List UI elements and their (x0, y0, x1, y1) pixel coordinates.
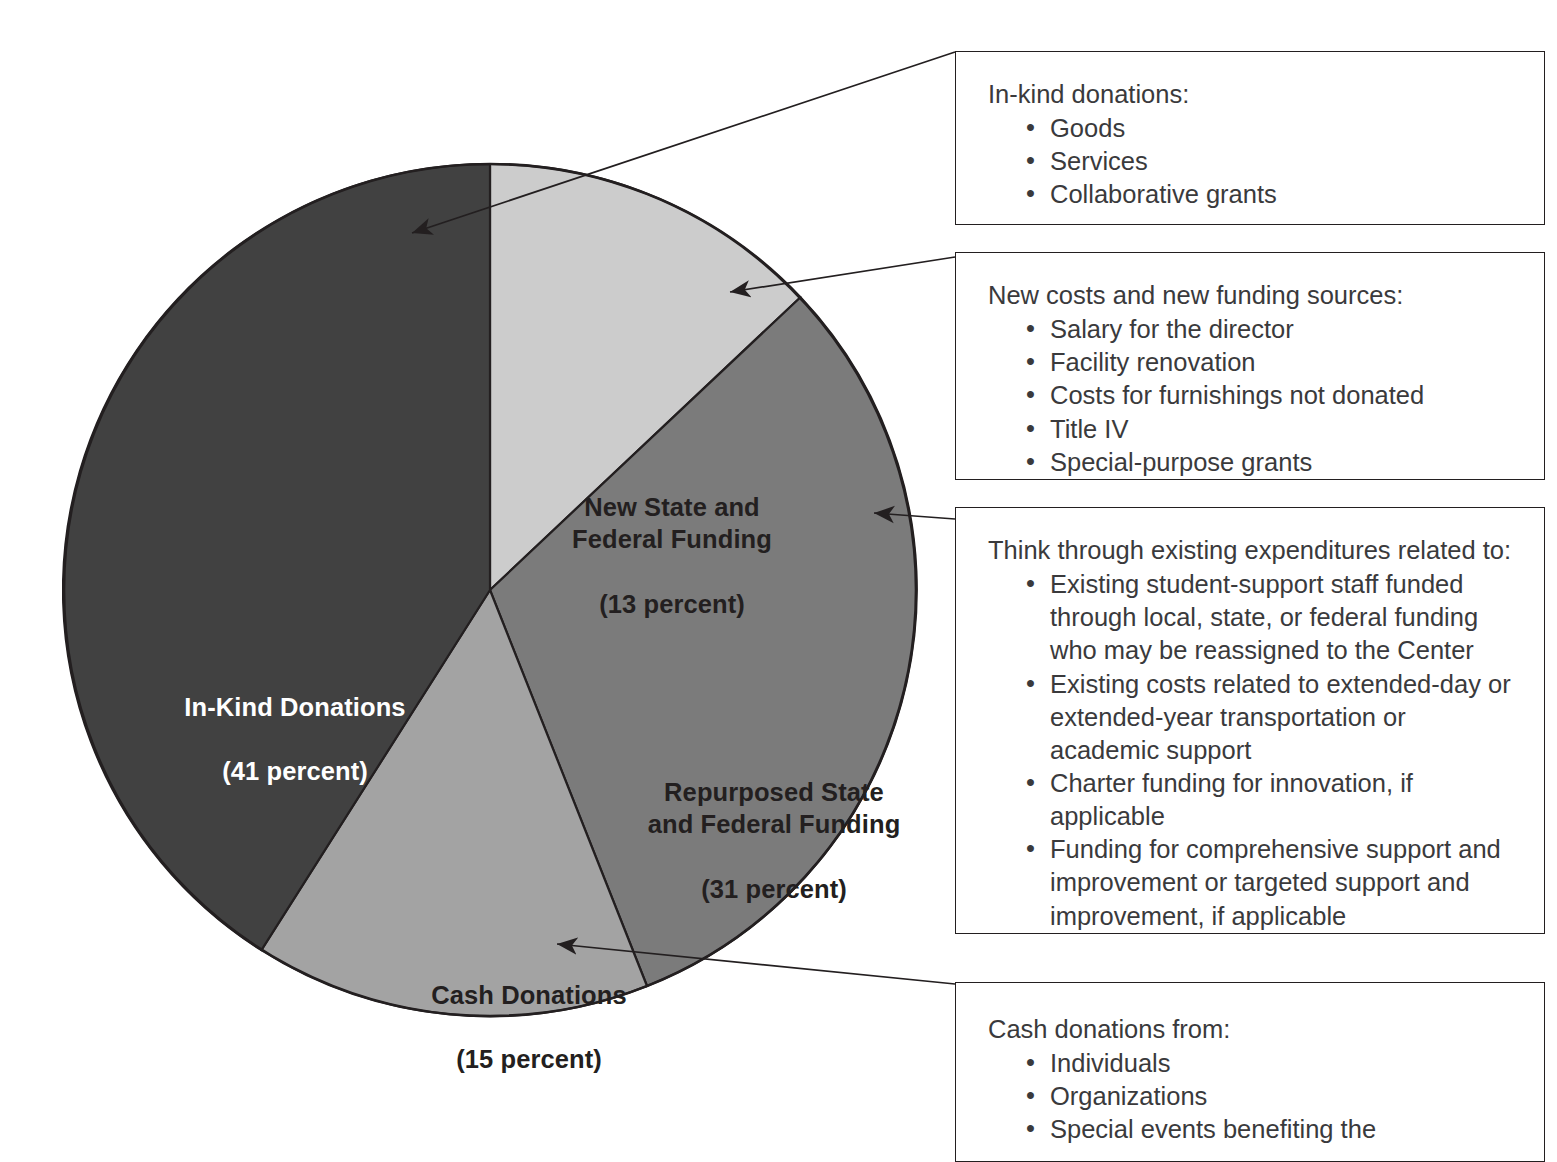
list-item: Existing costs related to extended-day o… (1024, 668, 1514, 767)
callout-box-cash-donations: Cash donations from: Individuals Organiz… (955, 982, 1545, 1162)
list-item: Facility renovation (1024, 346, 1514, 379)
callout-list: Existing student-support staff funded th… (988, 568, 1514, 933)
callout-heading: Cash donations from: (988, 1013, 1514, 1046)
list-item: Salary for the director (1024, 313, 1514, 346)
list-item: Services (1024, 145, 1514, 178)
callout-list: Salary for the director Facility renovat… (988, 313, 1514, 479)
pie-chart: In-Kind Donations (41 percent) New State… (62, 162, 918, 1018)
callout-list: Individuals Organizations Special events… (988, 1047, 1514, 1146)
callout-list: Goods Services Collaborative grants (988, 112, 1514, 211)
callout-heading: In-kind donations: (988, 78, 1514, 111)
list-item: Charter funding for innovation, if appli… (1024, 767, 1514, 833)
callout-heading: Think through existing expenditures rela… (988, 534, 1514, 567)
list-item: Existing student-support staff funded th… (1024, 568, 1514, 667)
list-item: Title IV (1024, 413, 1514, 446)
callout-box-in-kind-donations: In-kind donations: Goods Services Collab… (955, 51, 1545, 225)
pie-label-cash-donations-value: (15 percent) (400, 1043, 658, 1075)
callout-box-new-costs: New costs and new funding sources: Salar… (955, 252, 1545, 480)
list-item: Goods (1024, 112, 1514, 145)
list-item: Individuals (1024, 1047, 1514, 1080)
callout-box-repurposed-funding: Think through existing expenditures rela… (955, 507, 1545, 934)
pie-chart-svg (62, 162, 918, 1018)
list-item: Costs for furnishings not donated (1024, 379, 1514, 412)
callout-heading: New costs and new funding sources: (988, 279, 1514, 312)
list-item: Organizations (1024, 1080, 1514, 1113)
list-item: Funding for comprehensive support and im… (1024, 833, 1514, 932)
list-item: Collaborative grants (1024, 178, 1514, 211)
list-item: Special-purpose grants (1024, 446, 1514, 479)
list-item: Special events benefiting the (1024, 1113, 1514, 1146)
